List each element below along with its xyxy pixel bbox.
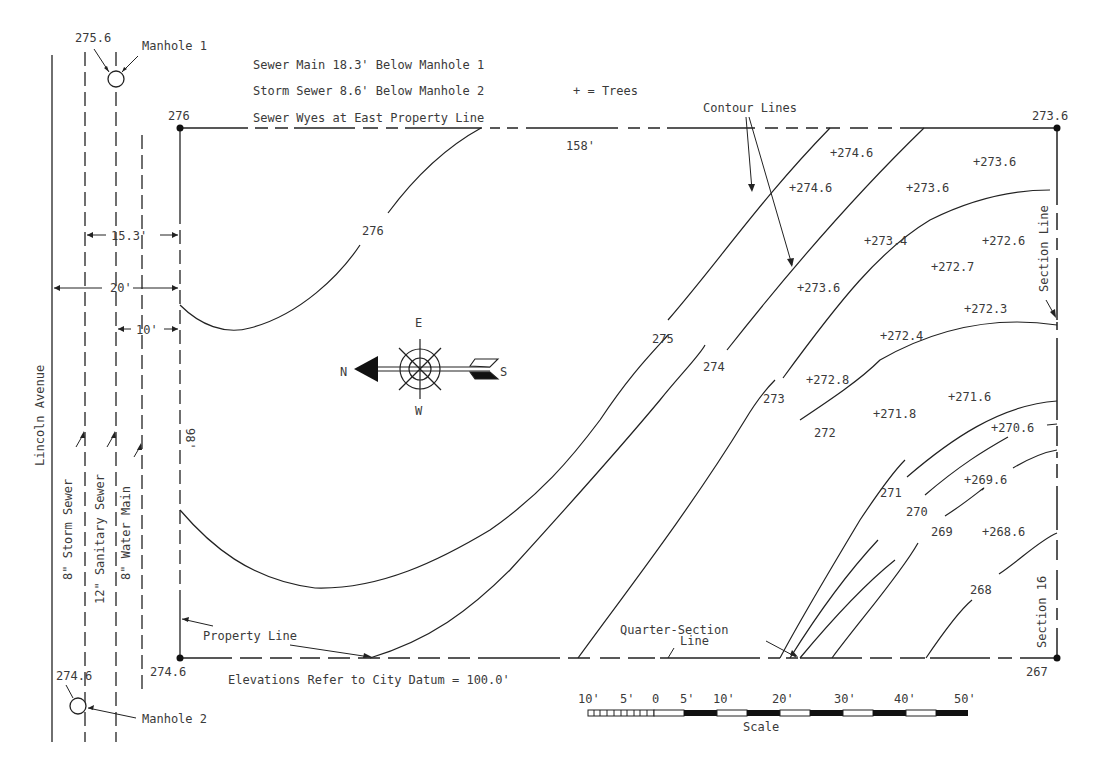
- compass-n-label: N: [340, 365, 347, 379]
- contour-269-c: [1013, 450, 1057, 468]
- scale-bar: 10' 5' 0 5' 10' 20' 30' 40' 50' Scale: [578, 692, 976, 734]
- site-plan-diagram: 275.6 Manhole 1 274.6 Manhole 2 Sewer Ma…: [0, 0, 1102, 768]
- scale-tick: 20': [772, 692, 794, 706]
- contour-label-268: 268: [970, 583, 992, 597]
- north-arrowhead-icon: [354, 356, 378, 382]
- contour-271: [790, 540, 878, 658]
- contour-lines: 276 275 274 273 272 271 270 269: [180, 128, 1057, 658]
- compass-w-label: W: [415, 404, 423, 418]
- label-storm-sewer: 8" Storm Sewer: [61, 479, 75, 580]
- property-line-callout: Property Line: [182, 617, 372, 658]
- corner-elev-nw: 276: [168, 109, 190, 123]
- corner-elev-sw: 274.6: [150, 665, 186, 679]
- tree-marker: +272.3: [964, 302, 1007, 316]
- note-trees-legend: + = Trees: [573, 84, 638, 98]
- manhole-2-elevation: 274.6: [56, 669, 92, 683]
- scale-tick: 30': [834, 692, 856, 706]
- corner-marker-se: [1054, 655, 1061, 662]
- quarter-section-callout: Quarter-Section Line: [620, 623, 798, 658]
- contour-label-276: 276: [362, 224, 384, 238]
- tree-marker: +272.7: [931, 260, 974, 274]
- arrowhead-icon: [88, 705, 94, 710]
- section-labels: Section Line Section 16: [1035, 205, 1056, 648]
- scale-tick: 10': [578, 692, 600, 706]
- contour-label-270: 270: [906, 505, 928, 519]
- tree-marker: +268.6: [982, 525, 1025, 539]
- compass-icon: E W N S: [340, 316, 507, 418]
- corner-marker-nw: [177, 125, 184, 132]
- arrowhead-icon: [104, 66, 109, 72]
- manhole-1: 275.6 Manhole 1: [75, 31, 207, 87]
- tree-marker: +273.6: [797, 281, 840, 295]
- arrowhead-icon: [748, 184, 755, 192]
- contour-273: [578, 380, 775, 658]
- scale-tick: 50': [954, 692, 976, 706]
- scale-tick: 0: [652, 692, 659, 706]
- tree-marker: +274.6: [830, 146, 873, 160]
- corner-marker-ne: [1054, 125, 1061, 132]
- dim-98: 98': [183, 428, 197, 450]
- scale-tick: 10': [713, 692, 735, 706]
- arrowhead-icon: [54, 285, 60, 291]
- note-storm-sewer: Storm Sewer 8.6' Below Manhole 2: [253, 84, 484, 98]
- manhole-1-symbol: [108, 71, 124, 87]
- contour-269: [832, 543, 918, 658]
- contour-lines-callout: Contour Lines: [703, 101, 797, 267]
- dimensions: 15.3' 20' 10' 158' 98': [54, 139, 595, 450]
- tree-markers: +274.6 +274.6 +273.6 +273.6 +273.4 +272.…: [789, 146, 1034, 539]
- compass-s-label: S: [500, 365, 507, 379]
- tree-marker: +274.6: [789, 181, 832, 195]
- tree-marker: +273.6: [906, 181, 949, 195]
- note-sewer-main: Sewer Main 18.3' Below Manhole 1: [253, 58, 484, 72]
- arrowhead-icon: [118, 326, 124, 332]
- contour-label-272: 272: [814, 426, 836, 440]
- contour-272-b: [800, 322, 1057, 420]
- section-16-label: Section 16: [1035, 576, 1049, 648]
- note-datum: Elevations Refer to City Datum = 100.0': [228, 673, 510, 687]
- property-line-label: Property Line: [203, 629, 297, 643]
- arrowhead-icon: [137, 443, 142, 450]
- contour-269-b: [945, 488, 984, 516]
- arrowhead-icon: [111, 431, 116, 438]
- section-line-label: Section Line: [1037, 205, 1051, 292]
- scale-tick: 5': [680, 692, 694, 706]
- contour-276-upper: [180, 245, 360, 330]
- compass-e-label: E: [415, 316, 422, 330]
- contour-271-b: [907, 401, 1057, 477]
- contour-lines-label: Contour Lines: [703, 101, 797, 115]
- arrowhead-icon: [172, 232, 178, 238]
- arrow-icon: [66, 685, 73, 698]
- tree-marker: +272.6: [982, 234, 1025, 248]
- quarter-section-label-1: Quarter-Section: [620, 623, 728, 637]
- scale-tick: 5': [620, 692, 634, 706]
- arrow-icon: [88, 708, 136, 718]
- tree-marker: +271.6: [948, 390, 991, 404]
- tree-marker: +270.6: [991, 421, 1034, 435]
- contour-label-275: 275: [652, 332, 674, 346]
- arrowhead-icon: [172, 326, 178, 332]
- manhole-2-symbol: [70, 698, 86, 714]
- street-utilities: [52, 52, 180, 742]
- scale-title: Scale: [743, 720, 779, 734]
- dim-158: 158': [566, 139, 595, 153]
- manhole-2-label: Manhole 2: [142, 712, 207, 726]
- tree-marker: +273.6: [973, 155, 1016, 169]
- manhole-1-label: Manhole 1: [142, 39, 207, 53]
- label-sanitary-sewer: 12" Sanitary Sewer: [93, 474, 107, 604]
- scale-tick: 40': [894, 692, 916, 706]
- arrowhead-icon: [182, 617, 189, 622]
- arrowhead-icon: [1050, 309, 1056, 318]
- tree-marker: +272.4: [880, 329, 923, 343]
- quarter-section-label-2: Line: [680, 634, 709, 648]
- dim-10: 10': [136, 323, 158, 337]
- dim-20: 20': [110, 281, 132, 295]
- corner-elev-ne: 273.6: [1032, 109, 1068, 123]
- contour-270-tick: [1047, 424, 1057, 425]
- contour-276-upper-b: [388, 128, 481, 213]
- street-name-lincoln-avenue: Lincoln Avenue: [33, 365, 47, 466]
- street-labels: Lincoln Avenue 8" Storm Sewer 12" Sanita…: [33, 365, 142, 604]
- arrowhead-icon: [80, 431, 85, 438]
- tree-marker: +271.8: [873, 407, 916, 421]
- contour-268-b: [999, 533, 1057, 574]
- tree-marker: +269.6: [964, 473, 1007, 487]
